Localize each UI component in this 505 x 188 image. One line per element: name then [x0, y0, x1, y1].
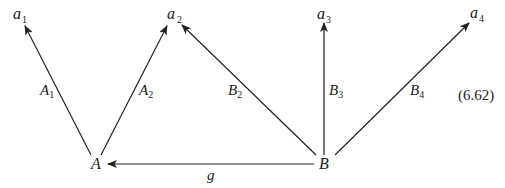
node-a4: a4 — [470, 4, 484, 24]
edge-label-g: g — [207, 167, 215, 183]
node-a3: a3 — [317, 5, 331, 25]
commutative-diagram: a1 a2 a3 a4 A B A1 A2 B2 B3 B4 g (6.62) — [0, 0, 505, 188]
arrow-B4 — [335, 23, 469, 155]
edge-label-B3: B3 — [329, 82, 343, 100]
arrow-A2 — [101, 26, 167, 155]
arrow-B2 — [182, 25, 316, 155]
node-a2: a2 — [167, 5, 182, 25]
node-B: B — [319, 155, 329, 172]
equation-number: (6.62) — [458, 87, 494, 104]
edge-label-A2: A2 — [138, 82, 153, 100]
arrow-A1 — [25, 26, 91, 155]
edge-label-B2: B2 — [228, 82, 242, 100]
edge-label-A1: A1 — [39, 82, 54, 100]
node-A: A — [90, 155, 101, 172]
edge-label-B4: B4 — [410, 82, 424, 100]
node-a1: a1 — [13, 5, 27, 25]
